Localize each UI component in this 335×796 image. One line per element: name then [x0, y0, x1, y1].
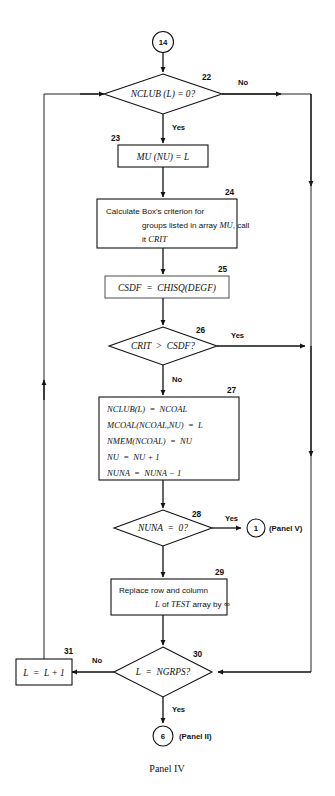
- process-31-text: L = L + 1: [22, 668, 65, 678]
- decision-30-text: L = NGRPS?: [135, 667, 191, 677]
- decision-22-text: NCLUB (L) = 0?: [130, 89, 196, 100]
- right-rail-path-upper: [222, 94, 311, 200]
- connector-exit-1-panel-label: (Panel V): [269, 524, 303, 533]
- process-27-line4: NU = NU + 1: [106, 452, 160, 462]
- flowchart-canvas: 14 NCLUB (L) = 0? 22 No Yes MU (NU) = L …: [0, 0, 335, 796]
- connector-entry-14-label: 14: [159, 38, 168, 47]
- decision-26-no-label: No: [172, 375, 182, 384]
- connector-exit-1: 1: [247, 519, 265, 537]
- process-27-number: 27: [227, 385, 237, 395]
- decision-26-yes-label: Yes: [231, 331, 244, 340]
- decision-30-yes-label: Yes: [172, 705, 185, 714]
- decision-30: L = NGRPS? 30: [114, 647, 212, 697]
- decision-28-number: 28: [192, 509, 202, 519]
- connector-exit-6: 6: [153, 726, 173, 746]
- decision-28-yes-label: Yes: [225, 514, 238, 523]
- process-27-line3: NMEM(NCOAL) = NU: [106, 436, 193, 446]
- decision-28-text: NUNA = 0?: [137, 523, 188, 533]
- process-27: NCLUB(L) = NCOAL MCOAL(NCOAL,NU) = L NME…: [99, 385, 239, 480]
- process-27-line2: MCOAL(NCOAL,NU) = L: [106, 420, 203, 430]
- process-29: Replace row and column L of TEST array b…: [111, 567, 258, 615]
- process-31-number: 31: [64, 646, 74, 656]
- connector-entry-14: 14: [153, 32, 174, 53]
- decision-22-no-label: No: [238, 78, 248, 87]
- flowchart-page: 14 NCLUB (L) = 0? 22 No Yes MU (NU) = L …: [0, 0, 335, 796]
- decision-26: CRIT > CSDF? 26: [109, 325, 217, 365]
- process-25: CSDF = CHISQ(DEGF) 25: [105, 264, 229, 298]
- left-feedback-rail: [44, 94, 98, 659]
- decision-28: NUNA = 0? 28: [114, 509, 212, 546]
- connector-exit-6-panel-label: (Panel II): [179, 732, 212, 741]
- process-27-line1: NCLUB(L) = NCOAL: [106, 404, 188, 414]
- process-23-text: MU (NU) = L: [136, 152, 189, 163]
- process-31: L = L + 1 31: [16, 646, 74, 685]
- process-29-number: 29: [215, 567, 225, 577]
- decision-22-yes-label: Yes: [172, 123, 185, 132]
- process-23: MU (NU) = L 23: [111, 133, 208, 167]
- connector-exit-1-label: 1: [254, 524, 259, 533]
- decision-26-text: CRIT > CSDF?: [131, 341, 195, 351]
- process-24-number: 24: [225, 187, 235, 197]
- process-25-number: 25: [218, 264, 228, 274]
- connector-exit-6-label: 6: [161, 732, 166, 741]
- process-24: Calculate Box's criterion for groups lis…: [97, 187, 277, 248]
- decision-22: NCLUB (L) = 0? 22: [104, 72, 222, 114]
- figure-caption: Panel IV: [149, 763, 185, 774]
- process-23-number: 23: [111, 133, 121, 143]
- decision-30-number: 30: [193, 649, 203, 659]
- decision-26-number: 26: [196, 325, 206, 335]
- process-27-line5: NUNA = NUNA − 1: [106, 468, 181, 478]
- decision-30-no-label: No: [92, 656, 102, 665]
- decision-22-number: 22: [202, 72, 212, 82]
- process-25-text: CSDF = CHISQ(DEGF): [118, 283, 216, 294]
